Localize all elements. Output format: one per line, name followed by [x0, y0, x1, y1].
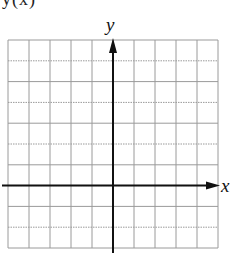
- x-axis-label: x: [221, 175, 229, 197]
- grid-graphic: [0, 0, 230, 259]
- y-axis-label: y: [106, 14, 114, 36]
- blank-coordinate-grid: y(x) y x: [0, 0, 230, 259]
- axes: [2, 38, 220, 253]
